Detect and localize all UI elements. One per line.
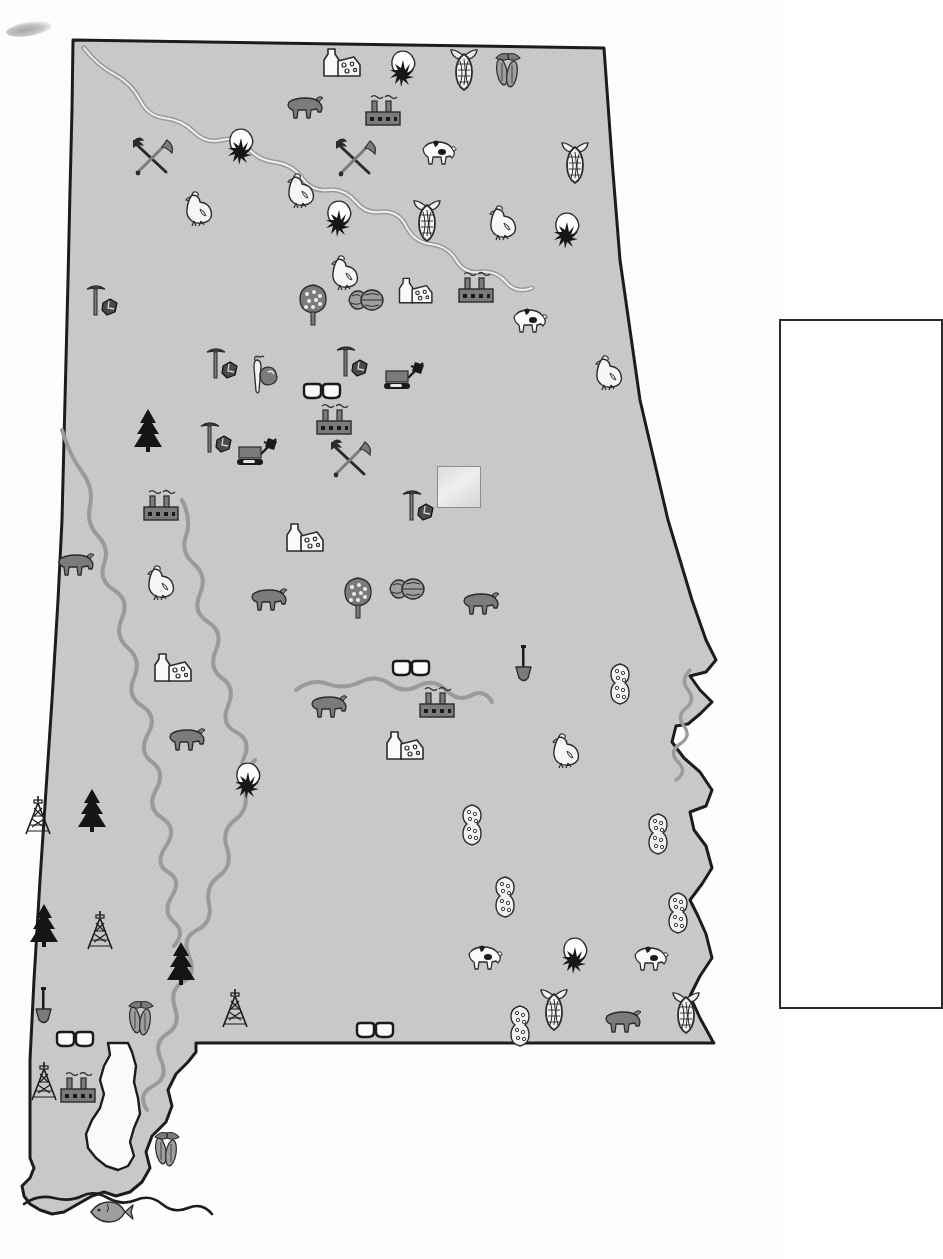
peanut-icon (458, 803, 486, 847)
peach-tree-icon (296, 283, 330, 327)
factory-icon (56, 1072, 100, 1108)
corn-ear-icon (449, 48, 479, 92)
hog-pig-icon (416, 138, 460, 166)
eyeglasses-icon (301, 382, 343, 402)
milk-bottle-and-cheese-icon (147, 648, 193, 688)
beef-cattle-icon (54, 550, 98, 580)
crossed-pick-and-shovel-icon (328, 438, 372, 480)
soybean-plant-icon (150, 1129, 184, 1173)
cotton-boll-icon (560, 935, 594, 971)
factory-icon (415, 687, 459, 723)
shovel-icon (512, 643, 534, 685)
milk-bottle-and-cheese-icon (393, 273, 434, 309)
oil-derrick-icon (84, 909, 116, 951)
milk-bottle-and-cheese-icon (379, 726, 425, 766)
beef-cattle-icon (307, 692, 351, 722)
crossed-pick-and-shovel-icon (333, 137, 377, 179)
cotton-boll-icon (226, 126, 260, 162)
fish-icon (87, 1200, 135, 1224)
factory-icon (139, 490, 183, 526)
poultry-chicken-icon (484, 203, 520, 241)
corn-ear-icon (671, 991, 701, 1035)
bulldozer-icon (382, 360, 428, 394)
pine-tree-icon (164, 940, 198, 986)
oil-derrick-icon (219, 987, 251, 1029)
hog-pig-icon (628, 944, 672, 972)
beef-cattle-icon (283, 93, 327, 123)
peanut-icon (606, 662, 634, 706)
peanut-icon (644, 812, 672, 856)
cotton-boll-icon (324, 198, 358, 234)
beef-cattle-icon (165, 725, 209, 755)
pick-and-coal-icon (400, 486, 434, 524)
milk-bottle-and-cheese-icon (316, 43, 362, 83)
corn-ear-icon (539, 988, 569, 1032)
eyeglasses-icon (54, 1030, 96, 1050)
pine-tree-icon (27, 902, 61, 948)
blank-label-box (437, 466, 481, 508)
beef-cattle-icon (601, 1007, 645, 1037)
soybean-plant-icon (491, 50, 525, 94)
poultry-chicken-icon (282, 171, 318, 209)
soybean-plant-icon (124, 998, 158, 1042)
pick-and-coal-icon (198, 418, 232, 456)
shovel-icon (32, 985, 54, 1027)
pine-tree-icon (131, 407, 165, 453)
oil-derrick-icon (22, 794, 54, 836)
hog-pig-icon (507, 306, 551, 334)
cotton-boll-icon (233, 760, 267, 796)
corn-ear-icon (412, 199, 442, 243)
map-legend-box[interactable] (779, 319, 943, 1009)
crossed-pick-and-shovel-icon (130, 136, 174, 178)
beef-cattle-icon (247, 585, 291, 615)
sweet-potato-and-carrot-icon (248, 354, 280, 396)
poultry-chicken-icon (142, 563, 178, 601)
eyeglasses-icon (390, 659, 432, 679)
peanut-icon (506, 1004, 534, 1048)
factory-icon (361, 95, 405, 131)
bulldozer-icon (235, 436, 281, 470)
peanut-icon (664, 891, 692, 935)
pecan-nuts-icon (345, 286, 385, 314)
pick-and-coal-icon (204, 344, 238, 382)
cotton-boll-icon (552, 210, 586, 246)
eyeglasses-icon (354, 1021, 396, 1041)
poultry-chicken-icon (180, 189, 216, 227)
corn-ear-icon (560, 141, 590, 185)
factory-icon (312, 404, 356, 440)
pecan-nuts-icon (386, 575, 426, 603)
factory-icon (454, 272, 498, 308)
peach-tree-icon (341, 576, 375, 620)
poultry-chicken-icon (547, 731, 583, 769)
peanut-icon (491, 875, 519, 919)
poultry-chicken-icon (590, 353, 626, 391)
milk-bottle-and-cheese-icon (279, 518, 325, 558)
pick-and-coal-icon (84, 281, 118, 319)
pick-and-coal-icon (334, 342, 368, 380)
hog-pig-icon (462, 943, 506, 971)
pine-tree-icon (75, 787, 109, 833)
cotton-boll-icon (388, 48, 422, 84)
beef-cattle-icon (459, 589, 503, 619)
